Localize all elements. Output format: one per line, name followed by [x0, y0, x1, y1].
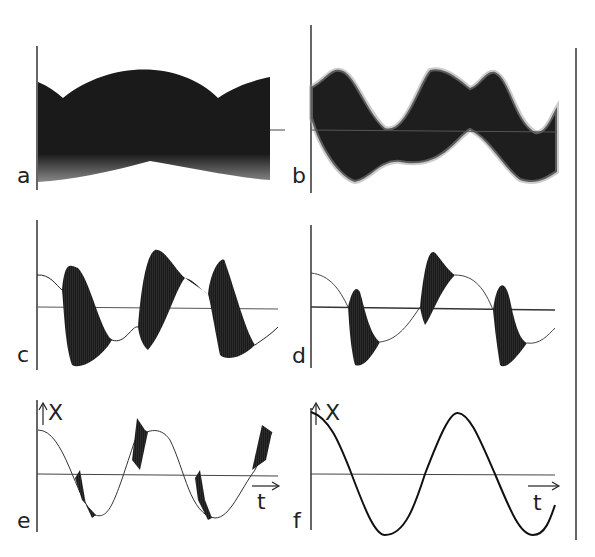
- panel-b: b: [292, 25, 557, 193]
- panel-c: c: [17, 220, 278, 370]
- y-axis-label-e: X: [48, 400, 63, 425]
- panel-label-f: f: [293, 508, 302, 533]
- x-axis-label-f: t: [533, 490, 542, 515]
- panel-f: X t f: [293, 400, 559, 535]
- figure-canvas: a b c d X: [0, 0, 595, 557]
- panel-label-b: b: [292, 163, 306, 188]
- panel-label-c: c: [17, 342, 29, 367]
- panel-label-d: d: [292, 343, 306, 368]
- panel-e: X t e: [17, 400, 279, 533]
- panel-a: a: [17, 46, 285, 190]
- panel-d: d: [292, 225, 555, 368]
- panel-label-a: a: [17, 163, 30, 188]
- panel-label-e: e: [17, 508, 31, 533]
- x-axis-label-e: t: [257, 489, 266, 514]
- y-axis-label-f: X: [325, 400, 340, 425]
